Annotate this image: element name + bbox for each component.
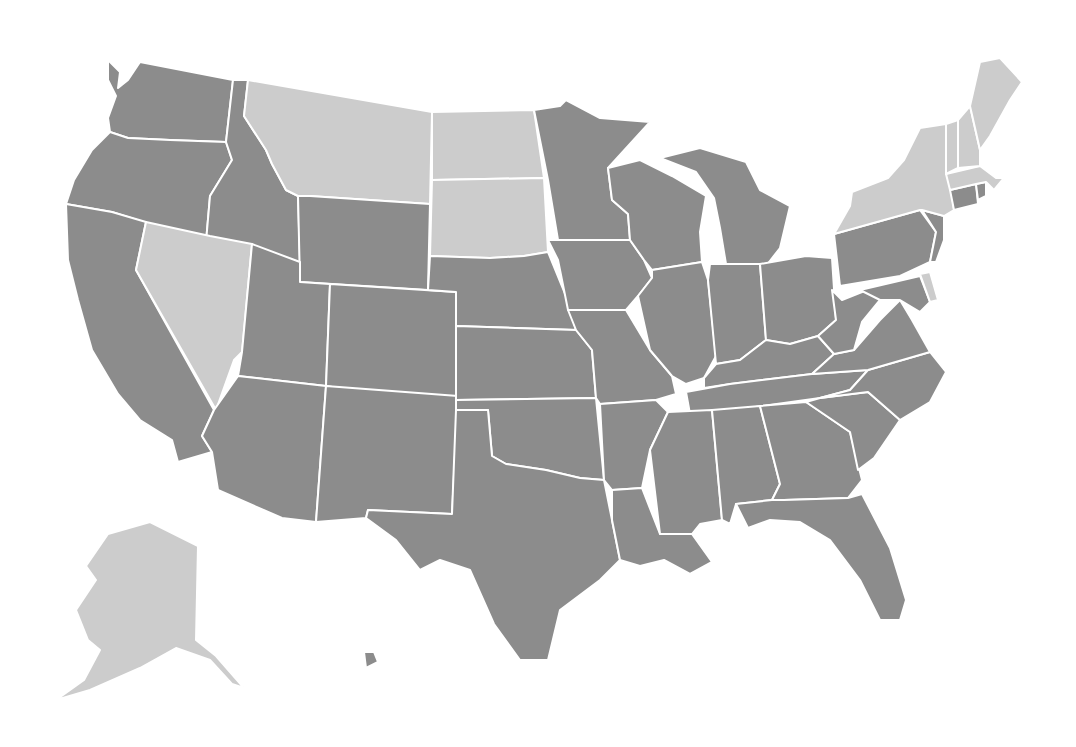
state-vt (946, 120, 958, 174)
state-wa (108, 60, 233, 142)
state-nm (316, 386, 458, 522)
state-hi (364, 652, 378, 668)
state-me (970, 58, 1022, 150)
state-ks (456, 326, 596, 400)
state-nd (432, 110, 544, 180)
us-state-map (0, 0, 1076, 747)
state-fl (736, 494, 906, 620)
state-sd (430, 178, 548, 258)
state-ms (650, 410, 722, 534)
state-ak (56, 522, 244, 700)
state-wy (298, 196, 430, 290)
